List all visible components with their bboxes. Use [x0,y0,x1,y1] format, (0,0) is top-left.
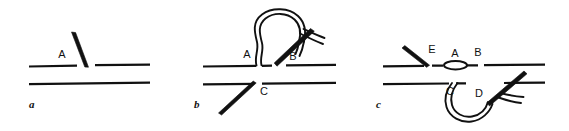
panel-b-upper-fabric-edge [203,65,336,67]
panel-b-label-A: A [243,48,251,60]
panel-b-thread-loop [255,9,305,65]
panel-b-lower-fabric-edge [203,83,336,85]
figure-root: A a [0,0,569,131]
panel-c-label-D: D [475,87,483,99]
needle-d-icon [487,71,527,106]
panel-b: A B C b [194,9,336,115]
panel-a-label-A: A [58,48,66,60]
panel-c-label-E: E [428,43,435,55]
panel-c-label-A: A [451,47,459,59]
panel-a-lower-fabric-edge [29,83,150,85]
panel-c-letter: c [376,98,381,110]
panel-a-upper-fabric-edge [29,65,150,67]
panel-b-label-B: B [289,50,296,62]
needle-b-icon [274,29,324,67]
needle-a-icon [72,32,89,67]
needle-e-icon [402,46,430,68]
stitch-oval-icon [444,61,467,69]
panel-b-label-C: C [260,85,268,97]
stitch-diagram-canvas: A a [0,0,569,131]
panel-c-label-B: B [474,46,481,58]
panel-a: A a [29,32,150,110]
panel-c-lower-fabric-edge [383,83,545,85]
panel-a-letter: a [29,98,35,110]
panel-c: E A B C D c [376,43,545,122]
panel-c-label-C: C [446,85,454,97]
panel-b-letter: b [194,98,200,110]
needle-c-icon [219,81,257,115]
panel-c-upper-fabric-edge [383,65,545,67]
